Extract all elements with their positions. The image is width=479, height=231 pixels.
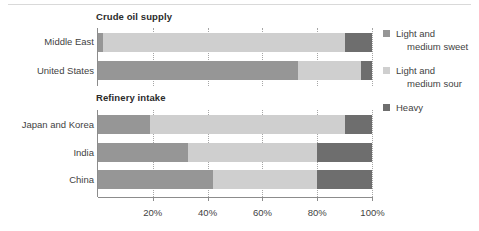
bar-row-united-states[interactable] <box>98 61 372 80</box>
bar-row-japan-and-korea[interactable] <box>98 115 372 134</box>
x-tick-label-40: 40% <box>198 207 217 218</box>
segment-sweet-japan-and-korea[interactable] <box>98 115 150 134</box>
category-label-japan-and-korea: Japan and Korea <box>2 119 94 130</box>
legend-label-sweet-line1: Light and <box>396 27 479 40</box>
segment-sour-china[interactable] <box>213 170 317 189</box>
category-label-china: China <box>2 174 94 185</box>
legend-swatch-sweet-icon <box>383 30 390 37</box>
segment-sour-united-states[interactable] <box>298 61 361 80</box>
bar-row-middle-east[interactable] <box>98 33 372 52</box>
legend-item-heavy[interactable]: Heavy <box>383 101 479 114</box>
category-label-middle-east: Middle East <box>2 36 94 47</box>
bar-row-india[interactable] <box>98 143 372 162</box>
plot-area-refinery <box>98 110 372 197</box>
segment-sour-japan-and-korea[interactable] <box>150 115 345 134</box>
x-axis-line <box>98 197 372 198</box>
x-tick-label-20: 20% <box>143 207 162 218</box>
segment-sweet-india[interactable] <box>98 143 188 162</box>
legend-swatch-sour-icon <box>383 67 390 74</box>
legend-label-sour-line2: medium sour <box>396 77 479 90</box>
legend: Light and medium sweet Light and medium … <box>383 27 479 123</box>
x-tick-100 <box>372 197 373 201</box>
segment-sweet-china[interactable] <box>98 170 213 189</box>
legend-swatch-heavy-icon <box>383 104 390 111</box>
segment-sour-middle-east[interactable] <box>103 33 344 52</box>
panel-title-crude-oil-supply: Crude oil supply <box>96 11 172 22</box>
x-tick-label-100: 100% <box>360 207 384 218</box>
segment-heavy-india[interactable] <box>317 143 372 162</box>
segment-heavy-middle-east[interactable] <box>345 33 372 52</box>
panel-title-refinery-intake: Refinery intake <box>96 92 166 103</box>
plot-area-crude <box>98 28 372 86</box>
legend-item-light-and-medium-sour[interactable]: Light and medium sour <box>383 64 479 90</box>
segment-heavy-japan-and-korea[interactable] <box>345 115 372 134</box>
legend-label-heavy-line1: Heavy <box>396 101 479 114</box>
segment-heavy-china[interactable] <box>317 170 372 189</box>
x-tick-label-80: 80% <box>308 207 327 218</box>
x-tick-20 <box>153 197 154 201</box>
x-tick-60 <box>262 197 263 201</box>
legend-item-light-and-medium-sweet[interactable]: Light and medium sweet <box>383 27 479 53</box>
x-tick-80 <box>317 197 318 201</box>
category-label-india: India <box>2 147 94 158</box>
top-divider <box>8 4 471 5</box>
stacked-bar-chart: Crude oil supply Middle East United Stat… <box>0 0 479 231</box>
legend-label-sour-line1: Light and <box>396 64 479 77</box>
bar-row-china[interactable] <box>98 170 372 189</box>
segment-heavy-united-states[interactable] <box>361 61 372 80</box>
segment-sweet-united-states[interactable] <box>98 61 298 80</box>
legend-label-sweet-line2: medium sweet <box>396 40 479 53</box>
segment-sour-india[interactable] <box>188 143 317 162</box>
x-tick-40 <box>208 197 209 201</box>
x-tick-label-60: 60% <box>253 207 272 218</box>
category-label-united-states: United States <box>2 65 94 76</box>
